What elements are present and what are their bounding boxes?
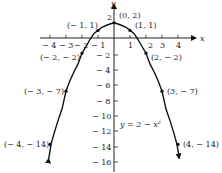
svg-text:1: 1	[128, 41, 133, 50]
svg-text:(0, 2): (0, 2)	[119, 11, 141, 20]
svg-text:− 6: − 6	[96, 81, 110, 90]
svg-text:2: 2	[107, 13, 112, 22]
svg-text:(2, − 2): (2, − 2)	[151, 53, 182, 62]
y-tick-labels: 2 − 2 − 4 − 6 − 8 − 10 − 12 − 14 − 16	[92, 13, 112, 167]
svg-text:− 14: − 14	[92, 143, 111, 152]
x-axis-label: x	[200, 34, 205, 43]
svg-text:4: 4	[176, 41, 181, 50]
parabola-chart: x y − 4 − 3 − 2 − 1 1 2 3 4 2 − 2 − 4	[0, 0, 222, 173]
equation-label: y = 2 − x²	[119, 120, 161, 129]
svg-text:− 12: − 12	[92, 127, 111, 136]
svg-text:(− 2, − 2): (− 2, − 2)	[40, 53, 80, 62]
y-ticks	[114, 55, 118, 162]
svg-text:(− 1, 1): (− 1, 1)	[67, 21, 98, 30]
svg-text:− 8: − 8	[96, 97, 110, 106]
svg-text:(1, 1): (1, 1)	[135, 21, 157, 30]
y-axis-label: y	[110, 0, 116, 8]
svg-text:(− 3, − 7): (− 3, − 7)	[24, 87, 64, 96]
svg-text:− 1: − 1	[91, 41, 105, 50]
svg-text:(3, − 7): (3, − 7)	[167, 87, 198, 96]
svg-text:(4, − 14): (4, − 14)	[183, 140, 219, 149]
svg-text:− 10: − 10	[92, 112, 111, 121]
svg-text:− 4: − 4	[42, 41, 56, 50]
svg-text:2: 2	[148, 41, 153, 50]
svg-text:− 2: − 2	[96, 51, 110, 60]
svg-text:(− 4, − 14): (− 4, − 14)	[4, 140, 49, 149]
svg-text:− 16: − 16	[92, 158, 111, 167]
svg-text:− 4: − 4	[96, 66, 110, 75]
svg-text:− 3: − 3	[59, 41, 73, 50]
svg-text:3: 3	[160, 41, 165, 50]
x-tick-labels: − 4 − 3 − 2 − 1 1 2 3 4	[42, 41, 181, 50]
